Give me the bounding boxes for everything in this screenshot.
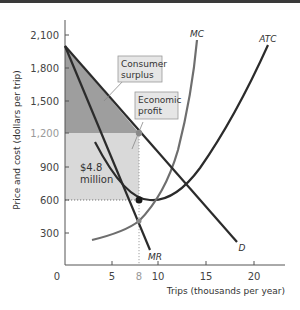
x-tick-label: 10 [152,271,165,282]
y-tick-label: 1,200 [30,128,59,139]
x-tick-label: 5 [109,271,115,282]
atc-point [136,197,143,204]
profit-value: million [80,174,113,185]
profit-value: $4.8 [80,162,102,173]
origin-label: 0 [54,271,60,282]
x-tick-label: 15 [200,271,213,282]
y-axis-title: Price and cost (dollars per trip) [12,70,22,209]
demand-label: D [239,243,246,253]
y-tick-label: 900 [40,162,59,173]
consumer-surplus-label: Consumer [121,59,167,69]
x-axis-title: Trips (thousands per year) [166,286,285,296]
x-tick-label: 8 [136,271,142,282]
y-tick-label: 300 [40,228,59,239]
y-tick-label: 600 [40,195,59,206]
x-ticks [112,261,254,265]
economic-profit-label: profit [138,106,162,116]
mc-label: MC [190,29,205,39]
consumer-surplus-leader [104,80,124,101]
consumer-surplus-label: surplus [121,70,154,80]
mr-label: MR [148,252,162,262]
x-tick-label: 20 [248,271,261,282]
economic-profit-label: Economic [138,95,182,105]
mc-mr-point [137,219,142,224]
y-tick-label: 1,800 [30,63,59,74]
y-tick-label: 2,100 [30,30,59,41]
y-tick-label: 1,500 [30,96,59,107]
monopoly-chart: 2,100 1,800 1,500 1,200 900 600 300 0 5 … [0,0,300,310]
atc-label: ATC [258,34,277,44]
